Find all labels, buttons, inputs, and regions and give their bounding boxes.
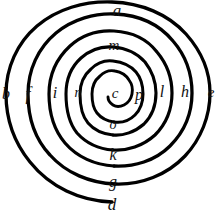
point-label-f: f [25, 85, 30, 103]
point-label-m: m [109, 38, 120, 53]
point-label-o: o [110, 118, 117, 132]
point-label-i: i [53, 85, 57, 101]
point-label-e: e [208, 85, 215, 100]
spiral-figure: a m c o k g d b f i n p l h e [0, 0, 219, 213]
point-label-c: c [112, 86, 119, 101]
point-label-b: b [2, 86, 10, 102]
point-label-p: p [135, 87, 143, 103]
point-label-a: a [113, 2, 122, 19]
point-label-k: k [109, 147, 116, 163]
point-label-g: g [109, 174, 117, 190]
point-label-h: h [181, 84, 189, 100]
point-label-d: d [108, 196, 117, 213]
point-label-n: n [75, 86, 82, 100]
point-label-l: l [160, 84, 164, 100]
